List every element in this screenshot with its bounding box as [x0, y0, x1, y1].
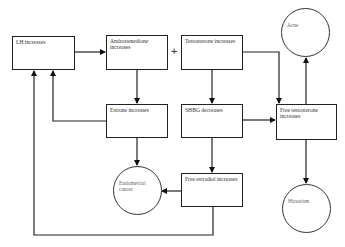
node-endometrial-cancer: Endometrial cancer	[113, 166, 162, 215]
node-label: Androstenedione increases	[110, 38, 165, 51]
node-androstenedione-increases: Androstenedione increases	[106, 35, 168, 70]
node-label: Estrone increases	[110, 107, 165, 113]
node-testosterone-increases: Testosterone increases	[181, 35, 243, 70]
node-estrone-increases: Estrone increases	[106, 104, 168, 138]
hormone-flow-diagram: LH increases Androstenedione increases +…	[0, 0, 345, 247]
node-label: Free estradiol increases	[185, 176, 240, 182]
node-lh-increases: LH increases	[12, 36, 75, 70]
node-label: SHBG decreases	[185, 107, 240, 113]
node-label: Acne	[287, 22, 298, 28]
node-free-testosterone-increases: Free testosterone increases	[276, 104, 337, 140]
node-shbg-decreases: SHBG decreases	[181, 104, 243, 138]
node-label: Testosterone increases	[185, 38, 240, 44]
node-label: Hirsutism	[288, 198, 309, 204]
plus-sign: +	[171, 45, 177, 57]
node-label: Free testosterone increases	[280, 107, 334, 120]
node-label: LH increases	[16, 39, 72, 45]
node-acne: Acne	[281, 8, 330, 57]
node-label: Endometrial cancer	[119, 180, 155, 192]
node-free-estradiol-increases: Free estradiol increases	[181, 173, 243, 207]
node-hirsutism: Hirsutism	[282, 184, 331, 233]
